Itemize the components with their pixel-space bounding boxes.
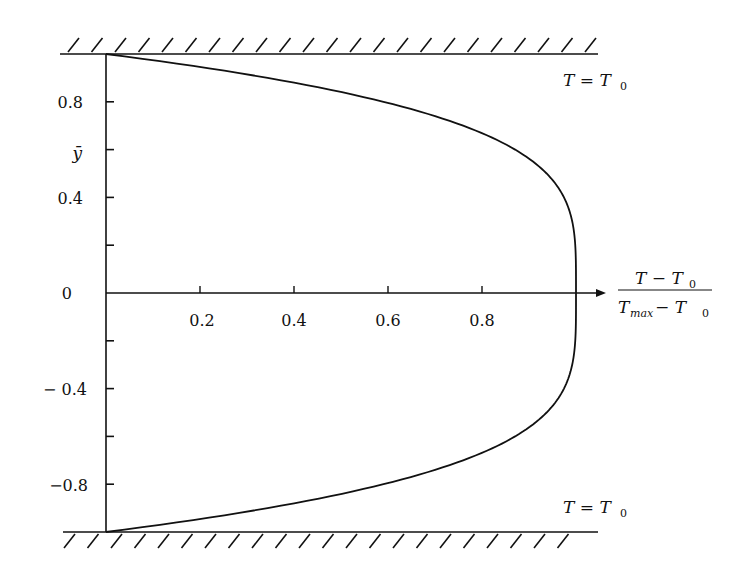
x-axis-label: T − T 0 T max − T 0	[618, 268, 712, 320]
wall-hatch	[393, 534, 404, 548]
wall-hatch	[88, 534, 99, 548]
subscript: 0	[689, 278, 696, 291]
wall-hatch	[68, 38, 79, 52]
temperature-profile-diagram: 0.2 0.4 0.6 0.8 0.8 ȳ 0.4 0 − 0.4 −0.8 T…	[0, 0, 750, 577]
wall-hatch	[229, 534, 240, 548]
x-tick-label: 0.2	[189, 311, 214, 330]
wall-hatch	[299, 534, 310, 548]
wall-hatch	[139, 38, 150, 52]
x-axis	[106, 286, 606, 297]
subscript: max	[630, 307, 654, 320]
wall-hatch	[327, 38, 338, 52]
x-tick-label: 0.6	[375, 311, 400, 330]
wall-hatch	[158, 534, 169, 548]
wall-hatch	[417, 534, 428, 548]
y-tick-label: − 0.4	[43, 380, 87, 399]
wall-hatch	[585, 38, 596, 52]
wall-hatch	[323, 534, 334, 548]
fraction-numerator: T − T	[635, 268, 684, 288]
top-wall	[60, 38, 598, 54]
y-tick-label: 0.8	[58, 93, 83, 112]
wall-hatch	[209, 38, 220, 52]
wall-hatch	[558, 534, 569, 548]
y-tick-labels: 0.8 ȳ 0.4 0 − 0.4 −0.8	[43, 93, 88, 495]
wall-hatch	[92, 38, 103, 52]
wall-hatch	[374, 38, 385, 52]
wall-hatch	[421, 38, 432, 52]
bottom-wall	[63, 532, 598, 548]
y-tick-label: 0	[62, 284, 72, 303]
fraction-denominator-rest: − T	[655, 297, 688, 317]
wall-hatch	[538, 38, 549, 52]
x-tick-label: 0.4	[281, 311, 306, 330]
wall-hatch	[111, 534, 122, 548]
wall-hatch	[370, 534, 381, 548]
wall-hatch	[186, 38, 197, 52]
wall-hatch	[233, 38, 244, 52]
y-tick-label: −0.8	[49, 476, 88, 495]
wall-hatch	[464, 534, 475, 548]
wall-hatch	[444, 38, 455, 52]
wall-condition-text: T = T	[563, 70, 612, 90]
wall-hatch	[276, 534, 287, 548]
subscript: 0	[620, 507, 627, 520]
wall-hatch	[562, 38, 573, 52]
x-tick-labels: 0.2 0.4 0.6 0.8	[189, 311, 494, 330]
x-axis-arrow-icon	[596, 289, 606, 297]
wall-condition-text: T = T	[563, 497, 612, 517]
y-axis-label: ȳ	[71, 143, 82, 163]
wall-hatch	[162, 38, 173, 52]
wall-hatch	[115, 38, 126, 52]
subscript: 0	[620, 80, 627, 93]
wall-hatch	[64, 534, 75, 548]
wall-hatch	[135, 534, 146, 548]
subscript: 0	[702, 307, 709, 320]
wall-hatch	[303, 38, 314, 52]
wall-hatch	[350, 38, 361, 52]
wall-hatch	[515, 38, 526, 52]
wall-hatch	[491, 38, 502, 52]
wall-hatch	[511, 534, 522, 548]
x-tick-label: 0.8	[469, 311, 494, 330]
wall-hatch	[205, 534, 216, 548]
y-tick-label: 0.4	[58, 189, 83, 208]
wall-hatch	[534, 534, 545, 548]
top-wall-condition: T = T 0	[563, 70, 627, 93]
bottom-wall-condition: T = T 0	[563, 497, 627, 520]
wall-hatch	[468, 38, 479, 52]
wall-hatch	[487, 534, 498, 548]
wall-hatch	[256, 38, 267, 52]
wall-hatch	[440, 534, 451, 548]
wall-hatch	[346, 534, 357, 548]
wall-hatch	[252, 534, 263, 548]
wall-hatch	[182, 534, 193, 548]
wall-hatch	[397, 38, 408, 52]
wall-hatch	[280, 38, 291, 52]
